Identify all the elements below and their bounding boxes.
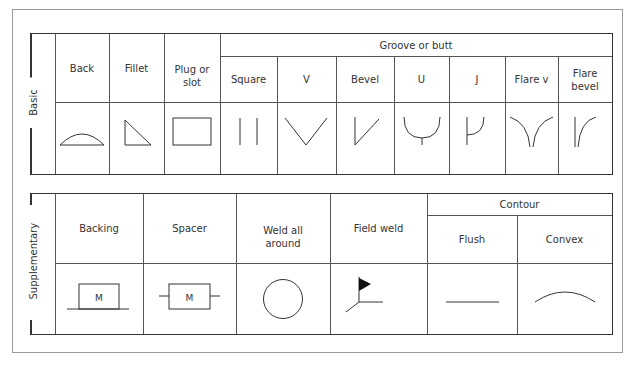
label-plug-or-slot: Plug or slot: [164, 42, 220, 110]
label-flush: Flush: [427, 216, 517, 263]
label-fillet: Fillet: [109, 34, 164, 102]
contour-header: Contour: [427, 194, 612, 215]
supplementary-section-label: Supplementary: [28, 223, 39, 303]
label-convex: Convex: [517, 216, 612, 263]
bevel-groove-icon: [336, 103, 394, 174]
flush-line-icon: [427, 264, 517, 334]
supplementary-bracket-bottom: [30, 320, 32, 335]
label-spacer: Spacer: [143, 194, 236, 263]
supplementary-bracket-top: [30, 193, 32, 205]
flare-bevel-groove-icon: [558, 103, 612, 174]
label-u: U: [394, 57, 449, 102]
label-flare-v: Flare v: [505, 57, 558, 102]
u-groove-icon: [394, 103, 449, 174]
square-groove-icon: [220, 103, 277, 174]
spacer-m-box-icon: M: [143, 264, 236, 334]
back-weld-arc-icon: [55, 103, 109, 174]
backing-m-box-icon: M: [55, 264, 143, 334]
label-weld-all-around: Weld all around: [236, 202, 330, 271]
groove-or-butt-header: Groove or butt: [220, 34, 612, 56]
label-v: V: [277, 57, 336, 102]
label-back: Back: [55, 34, 109, 102]
label-field-weld: Field weld: [330, 194, 427, 263]
label-backing: Backing: [55, 194, 143, 263]
fillet-triangle-icon: [109, 103, 164, 174]
flare-v-groove-icon: [505, 103, 558, 174]
basic-bracket-bottom: [30, 128, 32, 175]
plug-slot-rectangle-icon: [164, 103, 220, 174]
weld-all-around-circle-icon: [236, 264, 330, 334]
v-groove-icon: [277, 103, 336, 174]
label-bevel: Bevel: [336, 57, 394, 102]
label-square: Square: [220, 57, 277, 102]
j-groove-icon: [449, 103, 505, 174]
label-j: J: [449, 57, 505, 102]
svg-text:M: M: [95, 293, 103, 303]
convex-arc-icon: [517, 264, 612, 334]
svg-text:M: M: [186, 293, 194, 303]
basic-section-label: Basic: [28, 78, 39, 128]
label-flare-bevel: Flare bevel: [558, 57, 612, 102]
basic-bracket-top: [30, 33, 32, 81]
field-weld-flag-icon: [330, 264, 427, 334]
